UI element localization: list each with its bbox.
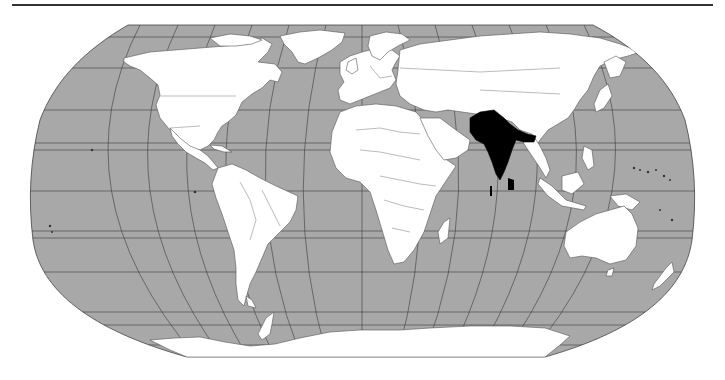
highlighted-sri-lanka <box>508 178 514 190</box>
highlighted-maldives <box>490 186 492 196</box>
world-map <box>0 0 725 380</box>
